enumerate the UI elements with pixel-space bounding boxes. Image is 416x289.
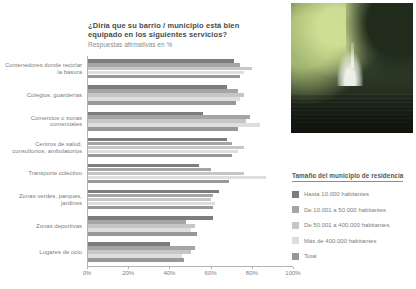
legend-label: Hasta 10.000 habitantes — [304, 191, 369, 197]
axis-tick-label: 60% — [205, 270, 217, 276]
legend-swatch — [292, 237, 299, 244]
legend-label: Más de 400.000 habitantes — [304, 238, 376, 244]
axis-tick-mark — [293, 267, 294, 269]
pond-water — [291, 94, 413, 133]
category-label: Lugares de ocio — [0, 239, 87, 265]
category-label: Zonas verdes, parques, jardines — [0, 187, 87, 213]
bar-group — [88, 213, 293, 239]
bar — [88, 242, 170, 245]
bar — [88, 85, 227, 88]
bar — [88, 202, 215, 205]
bar — [88, 146, 244, 149]
bar — [88, 123, 260, 126]
bar-group — [88, 56, 293, 82]
bar — [88, 206, 213, 209]
bar — [88, 63, 240, 66]
axis-tick-mark — [252, 267, 253, 269]
category-label: Comercios o zonas comerciales — [0, 108, 87, 134]
bar-group — [88, 135, 293, 161]
bar — [88, 142, 232, 145]
bar — [88, 250, 191, 253]
bar — [88, 97, 240, 100]
bar — [88, 154, 232, 157]
bar — [88, 115, 250, 118]
legend-item: De 50.001 a 400.000 habitantes — [292, 222, 414, 229]
legend-title: Tamaño del municipio de residencia — [292, 172, 403, 182]
axis-tick-label: 40% — [163, 270, 175, 276]
bar — [88, 224, 195, 227]
bar — [88, 190, 219, 193]
legend-swatch — [292, 222, 299, 229]
legend-swatch — [292, 253, 299, 260]
legend-item: Más de 400.000 habitantes — [292, 237, 414, 244]
axis-tick-mark — [87, 267, 88, 269]
axis-tick-mark — [211, 267, 212, 269]
axis-tick-label: 20% — [122, 270, 134, 276]
legend-items: Hasta 10.000 habitantesDe 10.001 a 50.00… — [292, 191, 414, 260]
chart-subtitle: Respuestas afirmativas en % — [88, 41, 268, 48]
legend-swatch — [292, 206, 299, 213]
bar — [88, 176, 266, 179]
category-labels: Contenedores donde reciclar la basuraCol… — [0, 56, 87, 267]
legend-label: De 10.001 a 50.000 habitantes — [304, 207, 386, 213]
legend-item: Hasta 10.000 habitantes — [292, 191, 414, 198]
bar — [88, 67, 252, 70]
bar — [88, 232, 197, 235]
axis-tick-mark — [169, 267, 170, 269]
bar — [88, 228, 191, 231]
bar — [88, 220, 186, 223]
plot-area — [87, 56, 293, 267]
bar — [88, 71, 244, 74]
bar — [88, 138, 227, 141]
axis-tick-label: 80% — [246, 270, 258, 276]
bar — [88, 89, 238, 92]
axis-tick-label: 0% — [83, 270, 92, 276]
bar-group — [88, 239, 293, 265]
bar — [88, 180, 229, 183]
bar — [88, 75, 240, 78]
bar-group — [88, 161, 293, 187]
bar-chart: Contenedores donde reciclar la basuraCol… — [0, 56, 294, 277]
legend-label: De 50.001 a 400.000 habitantes — [304, 222, 389, 228]
bar — [88, 119, 246, 122]
bar — [88, 168, 211, 171]
legend-item: Total — [292, 253, 414, 260]
category-label: Transporte colectivo — [0, 161, 87, 187]
bar — [88, 172, 244, 175]
bar — [88, 127, 238, 130]
park-fountain-photo — [291, 3, 413, 133]
bar — [88, 101, 236, 104]
category-label: Zonas deportivas — [0, 213, 87, 239]
bar — [88, 150, 238, 153]
bar — [88, 254, 182, 257]
bar — [88, 216, 213, 219]
legend: Tamaño del municipio de residencia Hasta… — [292, 164, 414, 260]
bar — [88, 59, 234, 62]
bar-group — [88, 187, 293, 213]
bar — [88, 198, 211, 201]
chart-header: ¿Diría que su barrio / municipio está bi… — [88, 21, 268, 48]
axis-tick-mark — [128, 267, 129, 269]
legend-item: De 10.001 a 50.000 habitantes — [292, 206, 414, 213]
bar — [88, 246, 195, 249]
fountain-spray — [337, 52, 363, 86]
chart-title: ¿Diría que su barrio / municipio está bi… — [88, 21, 268, 39]
bar — [88, 194, 213, 197]
x-axis: 0%20%40%60%80%100% — [87, 267, 293, 277]
legend-swatch — [292, 191, 299, 198]
category-label: Colegios, guarderías — [0, 82, 87, 108]
bar — [88, 258, 184, 261]
bar-group — [88, 82, 293, 108]
category-label: Centros de salud, consultorios, ambulato… — [0, 135, 87, 161]
category-label: Contenedores donde reciclar la basura — [0, 56, 87, 82]
bar-group — [88, 108, 293, 134]
legend-label: Total — [304, 253, 317, 259]
bar — [88, 112, 203, 115]
axis-tick-label: 100% — [285, 270, 300, 276]
bar — [88, 164, 199, 167]
bar — [88, 93, 244, 96]
